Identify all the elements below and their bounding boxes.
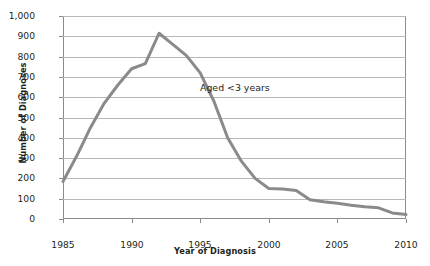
x-tick-mark-1995 [200, 219, 201, 223]
y-tick-label-200: 200 [0, 173, 35, 182]
series-annotation-label: Aged <3 years [200, 83, 270, 92]
y-tick-label-400: 400 [0, 133, 35, 142]
series-line-aged-under-3 [63, 33, 406, 214]
y-tick-label-1000: 1,000 [0, 11, 35, 20]
y-tick-label-600: 600 [0, 92, 35, 101]
x-axis-title: Year of Diagnosis [0, 246, 430, 256]
y-tick-label-300: 300 [0, 153, 35, 162]
y-tick-label-900: 900 [0, 31, 35, 40]
y-tick-label-700: 700 [0, 72, 35, 81]
y-tick-label-800: 800 [0, 52, 35, 61]
y-tick-label-500: 500 [0, 113, 35, 122]
series-line-group [63, 16, 406, 219]
x-tick-mark-1990 [132, 219, 133, 223]
y-tick-label-0: 0 [0, 214, 35, 223]
y-tick-label-100: 100 [0, 194, 35, 203]
x-tick-mark-2010 [406, 219, 407, 223]
x-tick-mark-2005 [337, 219, 338, 223]
line-chart: Number of Diagnoses 01002003004005006007… [0, 0, 430, 266]
plot-area: 01002003004005006007008009001,000 198519… [63, 16, 406, 219]
x-tick-mark-2000 [269, 219, 270, 223]
x-tick-mark-1985 [63, 219, 64, 223]
